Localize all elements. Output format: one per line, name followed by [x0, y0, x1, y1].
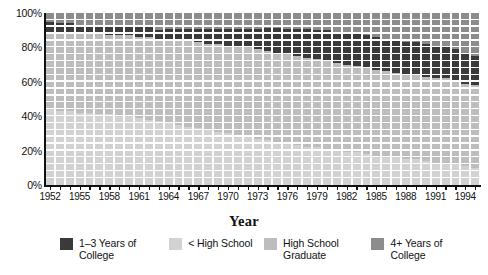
- segment: [452, 80, 460, 164]
- segment: [264, 51, 272, 140]
- y-tick-label-20: 20%: [0, 146, 42, 157]
- segment: [343, 152, 351, 185]
- segment: [66, 23, 74, 32]
- x-tick: [149, 185, 150, 190]
- segment: [303, 13, 311, 28]
- segment: [283, 13, 291, 28]
- segment: [165, 39, 173, 123]
- segment: [76, 25, 84, 34]
- segment: [293, 13, 301, 28]
- x-tick-label-1988: 1988: [395, 191, 416, 202]
- segment: [283, 144, 291, 185]
- segment: [115, 116, 123, 185]
- bar-1986: [381, 13, 391, 185]
- segment: [353, 66, 361, 152]
- bar-1993: [451, 13, 461, 185]
- segment: [234, 47, 242, 135]
- x-tick: [475, 185, 476, 190]
- segment: [333, 63, 341, 151]
- segment: [86, 13, 94, 25]
- bar-1970: [223, 13, 233, 185]
- segment: [204, 29, 212, 44]
- segment: [46, 109, 54, 185]
- x-tick: [366, 185, 367, 190]
- bar-1962: [144, 13, 154, 185]
- segment: [323, 61, 331, 149]
- segment: [471, 13, 479, 56]
- x-tick: [80, 185, 81, 190]
- legend-swatch-icon: [169, 238, 182, 250]
- segment: [244, 47, 252, 136]
- segment: [273, 28, 281, 52]
- segment: [471, 85, 479, 168]
- segment: [86, 34, 94, 113]
- y-tick-label-100: 100%: [0, 8, 42, 19]
- segment: [461, 166, 469, 185]
- segment: [155, 121, 163, 185]
- segment: [86, 113, 94, 185]
- segment: [165, 13, 173, 28]
- x-tick: [258, 185, 259, 190]
- segment: [372, 156, 380, 185]
- legend-swatch-icon: [371, 238, 384, 250]
- x-tick: [198, 185, 199, 190]
- stacked-bar-chart: 100% 80% 60% 40% 20% 0% 1952195519581961…: [0, 0, 488, 275]
- segment: [432, 78, 440, 162]
- x-tick-label-1982: 1982: [336, 191, 357, 202]
- bar-1952: [45, 13, 55, 185]
- x-tick: [178, 185, 179, 190]
- segment: [95, 34, 103, 115]
- bar-1978: [302, 13, 312, 185]
- segment: [224, 13, 232, 28]
- segment: [382, 39, 390, 72]
- segment: [264, 140, 272, 185]
- segment: [323, 30, 331, 61]
- bar-1990: [421, 13, 431, 185]
- segment: [76, 13, 84, 25]
- x-tick: [50, 185, 51, 190]
- plot-area: [45, 13, 480, 185]
- segment: [194, 13, 202, 28]
- segment: [214, 132, 222, 185]
- segment: [353, 34, 361, 67]
- x-tick-label-1985: 1985: [366, 191, 387, 202]
- segment: [135, 118, 143, 185]
- segment: [422, 77, 430, 161]
- x-tick: [337, 185, 338, 190]
- segment: [234, 29, 242, 48]
- bar-1992: [441, 13, 451, 185]
- bar-1971: [233, 13, 243, 185]
- segment: [382, 13, 390, 39]
- x-tick: [129, 185, 130, 190]
- segment: [224, 46, 232, 134]
- segment: [392, 13, 400, 41]
- bar-1960: [124, 13, 134, 185]
- bar-1963: [154, 13, 164, 185]
- bar-series-container: [45, 13, 480, 185]
- segment: [402, 13, 410, 42]
- bar-1965: [174, 13, 184, 185]
- bar-1967: [193, 13, 203, 185]
- x-tick: [70, 185, 71, 190]
- x-tick-label-1952: 1952: [39, 191, 60, 202]
- segment: [175, 125, 183, 185]
- segment: [165, 29, 173, 39]
- x-tick: [99, 185, 100, 190]
- bar-1972: [243, 13, 253, 185]
- segment: [363, 68, 371, 154]
- bar-1954: [65, 13, 75, 185]
- segment: [402, 159, 410, 185]
- segment: [333, 151, 341, 185]
- x-tick: [356, 185, 357, 190]
- segment: [234, 13, 242, 28]
- segment: [214, 29, 222, 44]
- x-tick-label-1955: 1955: [69, 191, 90, 202]
- segment: [135, 27, 143, 37]
- segment: [244, 13, 252, 28]
- segment: [254, 139, 262, 185]
- segment: [353, 13, 361, 34]
- segment: [175, 29, 183, 41]
- bar-1991: [431, 13, 441, 185]
- segment: [224, 29, 232, 46]
- x-tick: [188, 185, 189, 190]
